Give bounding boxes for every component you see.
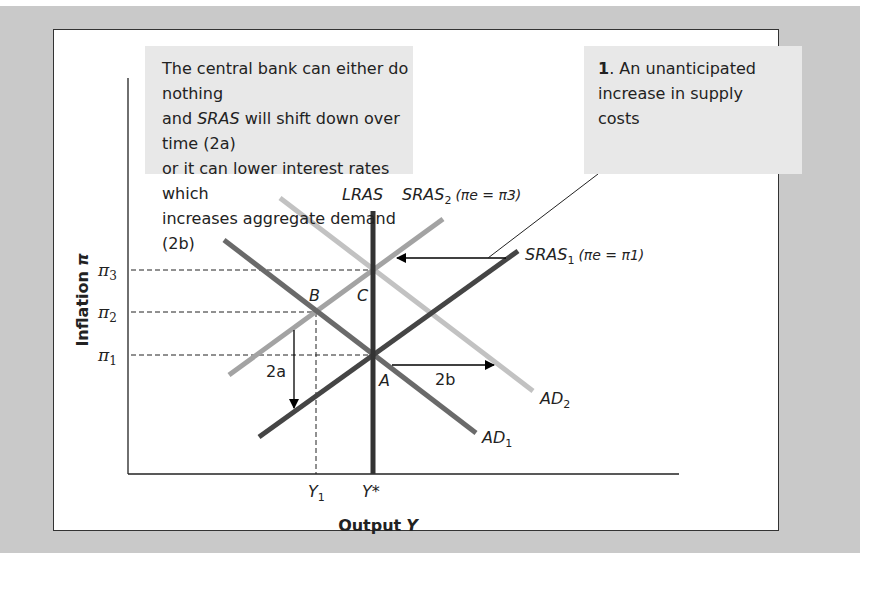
- tick-pi2: π2: [97, 302, 117, 325]
- tick-ystar: Y*: [362, 482, 380, 501]
- point-a: A: [378, 371, 390, 390]
- tick-pi3: π3: [97, 260, 117, 283]
- ad1-curve: [224, 240, 476, 433]
- y-axis-label: Inflationπ: [73, 253, 92, 347]
- shock-line-3: costs: [598, 106, 788, 131]
- label-sras1: SRAS1(πe = π1): [525, 245, 644, 267]
- policy-line-2: and SRAS will shift down over time (2a): [162, 106, 409, 156]
- label-2a: 2a: [266, 362, 286, 381]
- tick-y1: Y1: [308, 482, 325, 504]
- guide-lines: [131, 270, 373, 474]
- policy-line-3: or it can lower interest rates which: [162, 156, 409, 206]
- label-sras2: SRAS2(πe = π3): [402, 185, 521, 207]
- label-ad1: AD1: [481, 428, 512, 450]
- policy-callout-box: The central bank can either do nothing a…: [145, 46, 413, 174]
- label-ad2: AD2: [539, 389, 570, 411]
- policy-line-1: The central bank can either do nothing: [162, 56, 409, 106]
- point-c: C: [357, 286, 369, 305]
- shock-line-2: increase in supply: [598, 81, 788, 106]
- shock-callout-box: 1. An unanticipated increase in supply c…: [584, 46, 802, 174]
- point-b: B: [309, 286, 320, 305]
- label-2b: 2b: [435, 370, 455, 389]
- x-axis-label: OutputY: [338, 516, 419, 535]
- policy-line-4: increases aggregate demand (2b): [162, 206, 409, 256]
- shock-line-1: 1. An unanticipated: [598, 56, 788, 81]
- tick-pi1: π1: [97, 345, 117, 368]
